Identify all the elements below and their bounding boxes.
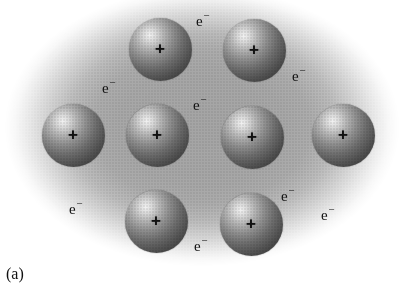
positive-charge-icon: +: [221, 106, 284, 169]
electron-symbol: e: [69, 201, 76, 217]
electron-center: e−: [193, 95, 206, 113]
electron-negative-charge-superscript: −: [203, 9, 209, 21]
electron-symbol: e: [193, 97, 200, 113]
electron-upper-left: e−: [102, 78, 115, 96]
electron-negative-charge-superscript: −: [200, 93, 206, 105]
electron-symbol: e: [321, 207, 328, 223]
positive-charge-icon: +: [125, 190, 188, 253]
electron-negative-charge-superscript: −: [288, 184, 294, 196]
electron-negative-charge-superscript: −: [201, 234, 207, 246]
positive-charge-icon: +: [223, 19, 286, 82]
electron-negative-charge-superscript: −: [299, 64, 305, 76]
ion-bottom-right: +: [220, 193, 283, 256]
positive-charge-icon: +: [312, 104, 375, 167]
ion-mid-right: +: [221, 106, 284, 169]
electron-symbol: e: [281, 188, 288, 204]
positive-charge-icon: +: [220, 193, 283, 256]
electron-symbol: e: [102, 80, 109, 96]
electron-top-center: e−: [196, 11, 209, 29]
electron-upper-right: e−: [292, 66, 305, 84]
positive-charge-icon: +: [42, 104, 105, 167]
electron-negative-charge-superscript: −: [328, 203, 334, 215]
ion-mid-left: +: [126, 104, 189, 167]
electron-bottom: e−: [194, 236, 207, 254]
electron-lower-right: e−: [321, 205, 334, 223]
metallic-bonding-figure: ++++++++ e−e−e−e−e−e−e−e− (a): [0, 0, 404, 292]
ion-top-left: +: [129, 18, 192, 81]
ion-mid-far-left: +: [42, 104, 105, 167]
electron-negative-charge-superscript: −: [109, 76, 115, 88]
electron-symbol: e: [292, 68, 299, 84]
ion-mid-far-right: +: [312, 104, 375, 167]
positive-charge-icon: +: [126, 104, 189, 167]
positive-charge-icon: +: [129, 18, 192, 81]
electron-negative-charge-superscript: −: [76, 197, 82, 209]
electron-lower-left: e−: [69, 199, 82, 217]
electron-lower-mid: e−: [281, 186, 294, 204]
panel-caption: (a): [6, 266, 24, 282]
electron-symbol: e: [194, 238, 201, 254]
ion-bottom-left: +: [125, 190, 188, 253]
ion-top-right: +: [223, 19, 286, 82]
electron-symbol: e: [196, 13, 203, 29]
